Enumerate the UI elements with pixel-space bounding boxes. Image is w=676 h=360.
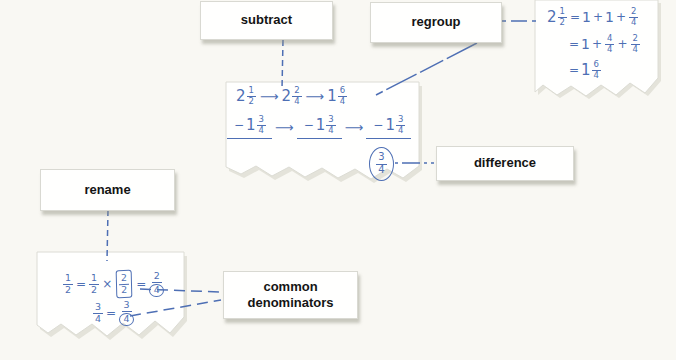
whole-number: 1 — [327, 89, 337, 104]
arrow-right: ⟶ — [272, 121, 297, 134]
denominator: 4 — [124, 314, 130, 324]
denominator: 2 — [560, 18, 565, 27]
numerator: 6 — [338, 86, 347, 97]
circled-fraction: 34 — [369, 147, 394, 181]
equals-sign: = — [568, 11, 582, 23]
numerator: 6 — [592, 60, 601, 71]
label-difference-text: difference — [474, 155, 536, 171]
denominator: 4 — [594, 71, 599, 80]
term: 1 — [605, 10, 614, 24]
numerator: 1 — [89, 273, 99, 285]
main-paper-row1: 2 12 ⟶ 2 24 ⟶ 1 64 — [236, 86, 348, 106]
numerator: 3 — [326, 115, 335, 126]
denominator: 4 — [607, 45, 612, 54]
boxed-fraction: 22 — [116, 270, 133, 299]
label-rename-text: rename — [84, 182, 130, 198]
numerator: 1 — [247, 86, 256, 97]
circled-denominator: 4 — [119, 313, 134, 326]
label-common-line2: denominators — [248, 295, 334, 311]
whole-number: 2 — [547, 10, 557, 25]
label-common-line1: common — [263, 279, 317, 295]
regroup-line3: = 1 64 — [567, 60, 602, 80]
denominator: 4 — [259, 126, 264, 135]
label-subtract: subtract — [200, 1, 333, 40]
numerator: 1 — [63, 273, 73, 285]
denominator: 2 — [91, 285, 97, 295]
equals-sign: = — [567, 64, 581, 76]
mixed-number: 2 12 — [236, 86, 257, 106]
whole-number: 2 — [282, 89, 292, 104]
main-paper-row2: − 1 34 ⟶ − 1 34 ⟶ − 1 34 — [227, 115, 411, 139]
equals-sign: = — [74, 278, 88, 290]
denominator: 4 — [154, 285, 160, 295]
arrow-right: ⟶ — [342, 121, 367, 134]
regroup-line1: 2 12 = 1 + 1 + 24 — [547, 7, 639, 27]
whole-number: 2 — [236, 89, 246, 104]
minus-sign: − — [232, 119, 246, 131]
regroup-line2: = 1 + 44 + 24 — [567, 34, 641, 54]
equals-sign: = — [134, 278, 148, 290]
equals-sign: = — [567, 38, 581, 50]
denominator: 4 — [633, 45, 638, 54]
diagram-canvas: 2 12 ⟶ 2 24 ⟶ 1 64 − 1 34 ⟶ − 1 34 — [0, 0, 676, 360]
label-rename: rename — [40, 169, 175, 211]
denominator: 2 — [249, 97, 254, 106]
plus-sign: + — [615, 38, 629, 50]
denominator: 4 — [294, 97, 299, 106]
numerator: 2 — [152, 271, 162, 283]
subtrahend-underlined: − 1 34 — [227, 115, 272, 139]
whole-number: 1 — [385, 118, 395, 133]
denominator: 4 — [328, 126, 333, 135]
denominator: 2 — [121, 285, 127, 296]
label-regroup: regroup — [370, 2, 502, 43]
plus-sign: + — [591, 11, 605, 23]
label-regroup-text: regroup — [411, 14, 460, 30]
plus-sign: + — [590, 38, 604, 50]
label-common-denominators: common denominators — [223, 271, 358, 319]
term: 1 — [582, 10, 591, 24]
mixed-number: 1 64 — [327, 86, 348, 106]
mixed-number: 2 24 — [282, 86, 303, 106]
numerator: 3 — [257, 115, 266, 126]
minus-sign: − — [302, 119, 316, 131]
rename-line1: 12 = 12 × 22 = 24 — [62, 270, 165, 298]
mixed-number: 2 12 — [547, 7, 568, 27]
numerator: 3 — [376, 152, 386, 165]
numerator: 2 — [629, 7, 638, 18]
plus-sign: + — [614, 11, 628, 23]
numerator: 3 — [122, 300, 132, 312]
mixed-number: 1 64 — [581, 60, 602, 80]
minus-sign: − — [371, 119, 385, 131]
whole-number: 1 — [581, 63, 591, 78]
numerator: 2 — [631, 34, 640, 45]
difference-result: 34 — [369, 147, 394, 181]
times-sign: × — [100, 278, 114, 290]
circled-denominator: 4 — [149, 284, 164, 297]
label-subtract-text: subtract — [241, 12, 292, 28]
numerator: 1 — [558, 7, 567, 18]
arrow-right: ⟶ — [303, 90, 328, 103]
denominator: 4 — [398, 126, 403, 135]
numerator: 3 — [396, 115, 405, 126]
numerator: 4 — [605, 34, 614, 45]
numerator: 2 — [292, 86, 301, 97]
rename-line2: 34 = 34 — [92, 300, 135, 326]
arrow-right: ⟶ — [257, 90, 282, 103]
numerator: 2 — [119, 273, 129, 285]
denominator: 2 — [65, 285, 71, 295]
term: 1 — [581, 37, 590, 51]
denominator: 4 — [378, 165, 384, 176]
subtrahend-underlined: − 1 34 — [297, 115, 342, 139]
denominator: 4 — [340, 97, 345, 106]
whole-number: 1 — [316, 118, 326, 133]
numerator: 3 — [93, 302, 103, 314]
label-difference: difference — [436, 146, 574, 181]
whole-number: 1 — [246, 118, 256, 133]
equals-sign: = — [104, 307, 118, 319]
denominator: 4 — [95, 314, 101, 324]
subtrahend-underlined: − 1 34 — [366, 115, 411, 139]
denominator: 4 — [631, 18, 636, 27]
